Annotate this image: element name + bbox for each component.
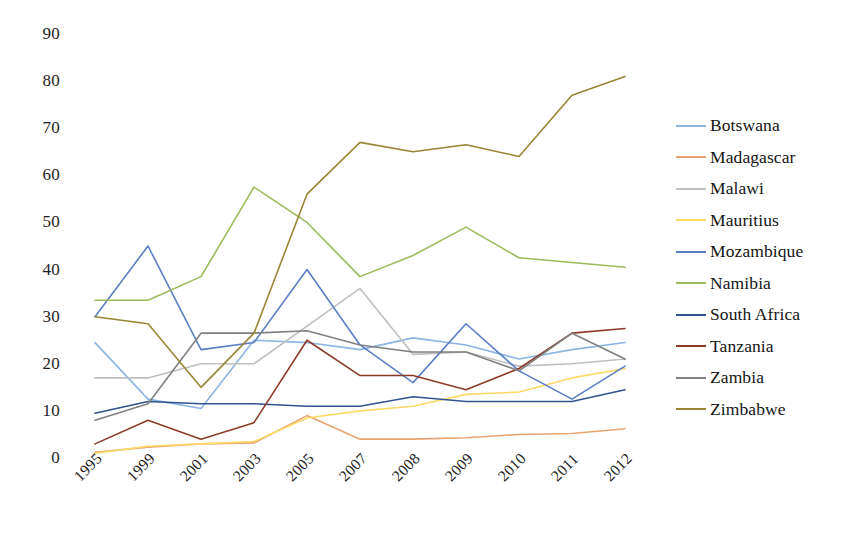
legend-color-swatch-icon xyxy=(676,251,706,253)
legend-item-label: Mauritius xyxy=(710,211,779,230)
legend-item-label: Zimbabwe xyxy=(710,400,786,419)
legend-color-swatch-icon xyxy=(676,125,706,127)
series-lines xyxy=(95,76,625,453)
legend-item-label: Namibia xyxy=(710,274,771,293)
legend-item-label: Zambia xyxy=(710,368,764,387)
line-chart: 0102030405060708090 19951999200120032005… xyxy=(0,0,848,544)
series-line-namibia xyxy=(95,187,625,300)
series-line-botswana xyxy=(95,338,625,409)
legend-item-label: South Africa xyxy=(710,305,800,324)
legend-item-label: Malawi xyxy=(710,179,764,198)
legend-item-botswana[interactable]: Botswana xyxy=(676,110,848,142)
series-line-malawi xyxy=(95,288,625,378)
legend-item-mauritius[interactable]: Mauritius xyxy=(676,205,848,237)
legend-color-swatch-icon xyxy=(676,156,706,158)
legend-item-zambia[interactable]: Zambia xyxy=(676,362,848,394)
legend-color-swatch-icon xyxy=(676,314,706,316)
legend-item-label: Botswana xyxy=(710,116,780,135)
legend-item-label: Tanzania xyxy=(710,337,774,356)
legend-color-swatch-icon xyxy=(676,188,706,190)
legend-color-swatch-icon xyxy=(676,282,706,284)
legend-item-label: Mozambique xyxy=(710,242,803,261)
series-line-zimbabwe xyxy=(95,76,625,387)
legend-item-namibia[interactable]: Namibia xyxy=(676,268,848,300)
legend-item-zimbabwe[interactable]: Zimbabwe xyxy=(676,394,848,426)
legend-color-swatch-icon xyxy=(676,408,706,410)
series-line-mauritius xyxy=(95,368,625,453)
legend-item-label: Madagascar xyxy=(710,148,796,167)
legend-color-swatch-icon xyxy=(676,345,706,347)
series-line-south-africa xyxy=(95,390,625,414)
legend-color-swatch-icon xyxy=(676,377,706,379)
legend-color-swatch-icon xyxy=(676,219,706,221)
legend-item-south-africa[interactable]: South Africa xyxy=(676,299,848,331)
series-line-madagascar xyxy=(95,416,625,453)
legend-item-malawi[interactable]: Malawi xyxy=(676,173,848,205)
chart-legend: BotswanaMadagascarMalawiMauritiusMozambi… xyxy=(676,110,848,425)
legend-item-mozambique[interactable]: Mozambique xyxy=(676,236,848,268)
legend-item-madagascar[interactable]: Madagascar xyxy=(676,142,848,174)
legend-item-tanzania[interactable]: Tanzania xyxy=(676,331,848,363)
